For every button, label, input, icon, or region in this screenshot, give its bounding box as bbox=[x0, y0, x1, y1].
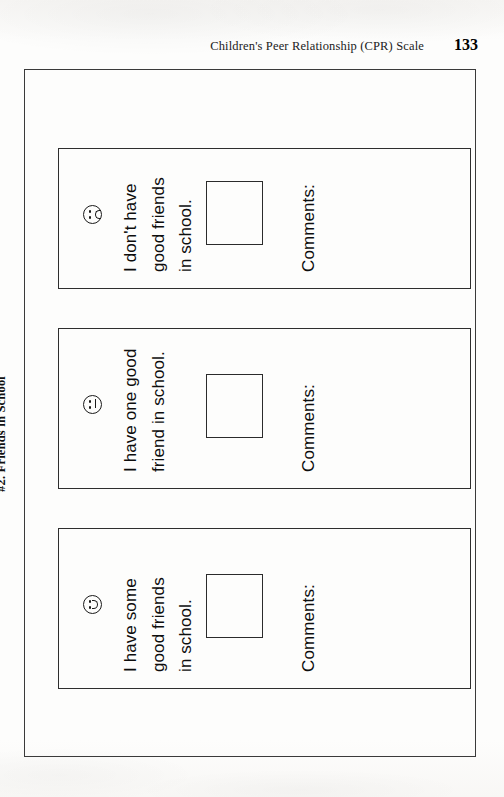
item-statement: I don't have good friends in school. bbox=[117, 177, 200, 272]
statement-line: I don't have bbox=[117, 177, 145, 272]
item-statement: I have some good friends in school. bbox=[117, 577, 200, 672]
response-checkbox[interactable] bbox=[206, 181, 263, 245]
comments-label: Comments: bbox=[299, 584, 319, 672]
comments-label: Comments: bbox=[299, 384, 319, 472]
neutral-face-icon bbox=[83, 395, 102, 414]
statement-line: I have some bbox=[117, 577, 145, 672]
statement-line: in school. bbox=[172, 577, 200, 672]
happy-face-icon bbox=[83, 595, 102, 614]
running-head: Children's Peer Relationship (CPR) Scale… bbox=[0, 36, 478, 54]
section-title: #2. Friends in School bbox=[0, 292, 9, 492]
statement-line: friend in school. bbox=[145, 349, 173, 472]
statement-line: good friends bbox=[145, 577, 173, 672]
item-option-panel[interactable]: I have one good friend in school. Commen… bbox=[58, 328, 471, 489]
comments-label: Comments: bbox=[299, 184, 319, 272]
sad-face-icon bbox=[83, 205, 102, 224]
page-number: 133 bbox=[454, 36, 478, 54]
statement-line: I have one good bbox=[117, 349, 145, 472]
running-head-title: Children's Peer Relationship (CPR) Scale bbox=[210, 39, 424, 54]
statement-line: good friends bbox=[145, 177, 173, 272]
worksheet-frame: #2. Friends in School I have some good f… bbox=[24, 69, 476, 757]
response-checkbox[interactable] bbox=[206, 374, 263, 438]
item-statement: I have one good friend in school. bbox=[117, 349, 172, 472]
item-option-panel[interactable]: I don't have good friends in school. Com… bbox=[58, 148, 471, 289]
response-checkbox[interactable] bbox=[206, 574, 263, 638]
item-option-panel[interactable]: I have some good friends in school. Comm… bbox=[58, 528, 471, 689]
statement-line: in school. bbox=[172, 177, 200, 272]
